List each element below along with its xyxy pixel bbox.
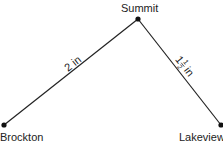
- map-diagram: Summit Brockton Lakeview 2 in 1 1 2 in: [0, 0, 223, 142]
- label-brockton: Brockton: [0, 131, 43, 142]
- point-summit: [135, 16, 140, 21]
- edge-summit-lakeview: [138, 19, 221, 125]
- label-distance-brockton-summit: 2 in: [62, 53, 83, 73]
- label-lakeview: Lakeview: [179, 131, 223, 142]
- point-brockton: [1, 122, 6, 127]
- label-summit: Summit: [121, 2, 158, 14]
